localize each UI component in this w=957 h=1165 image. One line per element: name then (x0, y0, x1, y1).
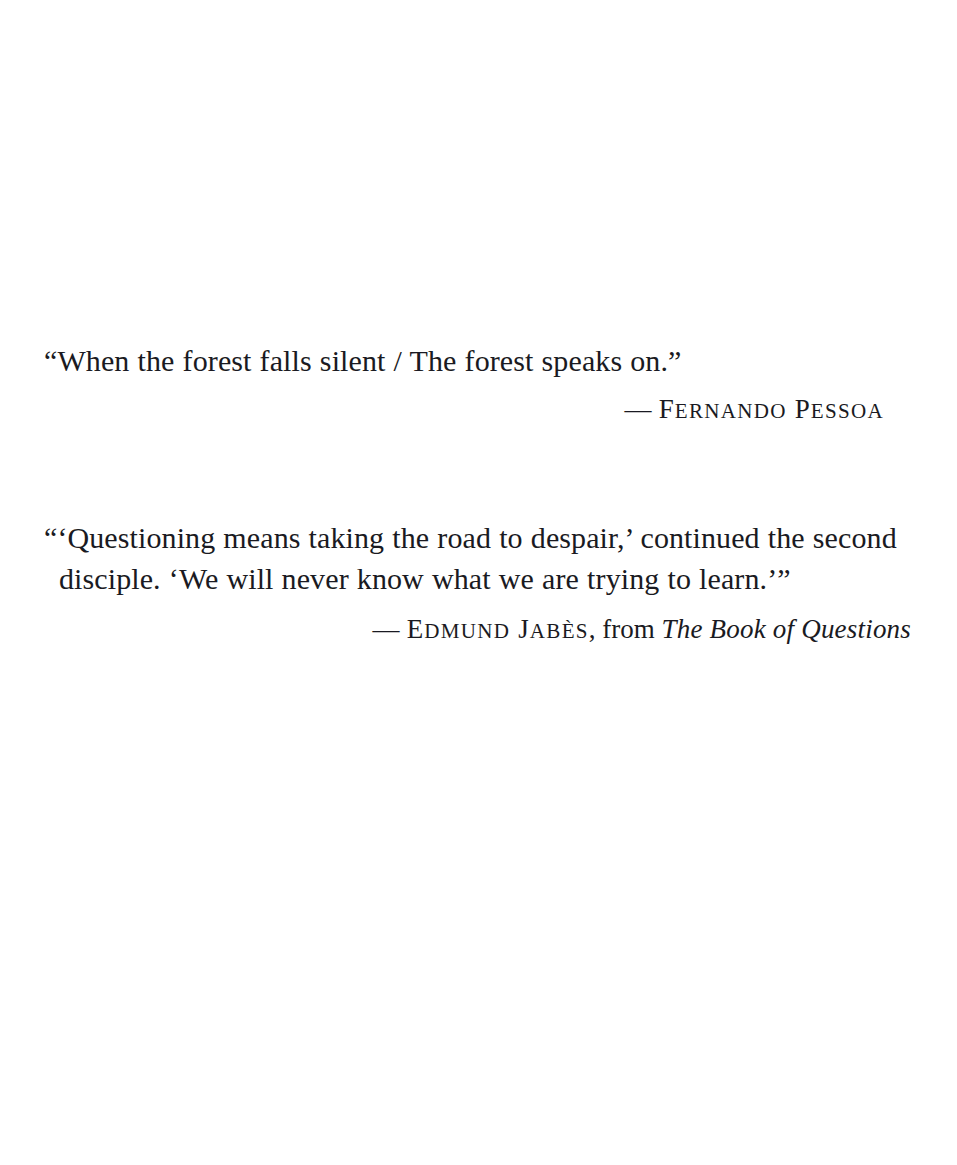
book-title: The Book of Questions (662, 614, 911, 644)
author-firstname-smallcaps: ERNANDO (675, 399, 787, 423)
quote-line-2: disciple. ‘We will never know what we ar… (59, 562, 791, 595)
author-surname-initial: J (518, 614, 530, 644)
author-initial: E (407, 614, 425, 644)
attribution-pessoa: — FERNANDO PESSOA (44, 381, 920, 430)
em-dash: — (624, 394, 652, 424)
quote-line-1: “‘Questioning means taking the road to d… (44, 521, 897, 554)
epigraph-jabes: “‘Questioning means taking the road to d… (44, 517, 920, 650)
author-surname-smallcaps: ESSOA (811, 399, 884, 423)
name-space (787, 394, 795, 424)
em-dash: — (373, 614, 401, 644)
author-name-jabes: EDMUND JABÈS (407, 614, 589, 644)
quote-text-jabes: “‘Questioning means taking the road to d… (44, 517, 920, 599)
author-surname-initial: P (795, 394, 811, 424)
author-initial: F (659, 394, 675, 424)
attribution-jabes: — EDMUND JABÈS, from The Book of Questio… (44, 599, 920, 650)
epigraph-pessoa: “When the forest falls silent / The fore… (44, 340, 920, 430)
epigraph-page: “When the forest falls silent / The fore… (0, 0, 957, 1165)
quote-text-pessoa: “When the forest falls silent / The fore… (44, 340, 920, 381)
author-name-pessoa: FERNANDO PESSOA (659, 394, 884, 424)
from-word: from (602, 614, 654, 644)
attribution-comma: , (589, 614, 596, 644)
author-surname-smallcaps: ABÈS (530, 619, 589, 643)
author-firstname-smallcaps: DMUND (424, 619, 510, 643)
